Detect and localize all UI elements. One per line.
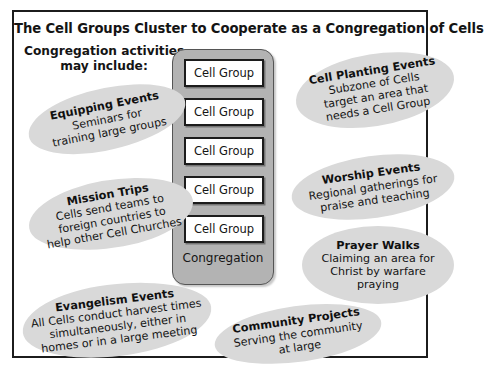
- cell-group-label: Cell Group: [194, 183, 254, 197]
- activity-blob-community: Community Projects Serving the community…: [211, 295, 385, 371]
- intro-text: Congregation activities may include:: [24, 44, 184, 74]
- cell-group-label: Cell Group: [194, 105, 254, 119]
- activity-blob-evangelism: Evangelism Events All Cells conduct harv…: [18, 273, 215, 368]
- activity-blob-worship: Worship Events Regional gatherings for p…: [287, 145, 458, 229]
- activity-line: praying: [357, 278, 399, 291]
- congregation-label: Congregation: [173, 251, 273, 265]
- activity-blob-cell-planting: Cell Planting Events Subzone of Cells ta…: [290, 42, 459, 138]
- activity-line: Claiming an area for: [321, 252, 434, 265]
- activity-line: Christ by warfare: [330, 265, 426, 278]
- cell-group-box: Cell Group: [184, 215, 264, 243]
- activity-blob-prayer-walks: Prayer Walks Claiming an area for Christ…: [302, 226, 454, 304]
- intro-line-1: Congregation activities: [24, 44, 184, 59]
- congregation-container: Cell Group Cell Group Cell Group Cell Gr…: [172, 49, 274, 285]
- activity-title: Prayer Walks: [336, 239, 419, 252]
- cell-group-box: Cell Group: [184, 137, 264, 165]
- cell-group-box: Cell Group: [184, 176, 264, 204]
- activity-blob-equipping: Equipping Events Seminars for training l…: [23, 73, 192, 164]
- cell-group-label: Cell Group: [194, 222, 254, 236]
- cell-group-box: Cell Group: [184, 59, 264, 87]
- intro-line-2: may include:: [24, 59, 184, 74]
- cell-group-label: Cell Group: [194, 66, 254, 80]
- cell-group-box: Cell Group: [184, 98, 264, 126]
- cell-group-label: Cell Group: [194, 144, 254, 158]
- page-title: The Cell Groups Cluster to Cooperate as …: [14, 21, 426, 36]
- diagram-frame: The Cell Groups Cluster to Cooperate as …: [12, 10, 428, 358]
